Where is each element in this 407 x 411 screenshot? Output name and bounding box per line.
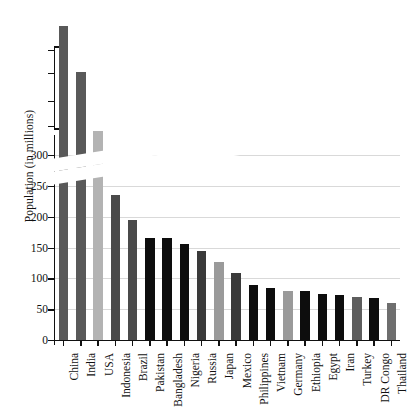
y-axis-tick <box>48 248 55 249</box>
gridline <box>55 278 400 279</box>
x-axis-line <box>53 340 400 342</box>
y-axis-line-upper <box>54 46 56 129</box>
x-axis-tick <box>304 340 305 346</box>
x-axis-tick <box>373 340 374 346</box>
bar <box>266 288 276 340</box>
bar <box>197 251 207 340</box>
bar-upper-segment <box>76 72 86 145</box>
gridline <box>55 186 400 187</box>
y-axis-tick-label: 150 <box>31 242 48 254</box>
x-axis-tick <box>132 340 133 346</box>
y-axis-tick-upper <box>48 50 55 51</box>
x-axis-label: Iran <box>344 353 356 372</box>
x-axis-label: Vietnam <box>275 353 287 392</box>
x-axis-label: China <box>68 353 80 380</box>
x-axis-tick <box>63 340 64 346</box>
x-axis-label: Japan <box>223 353 235 379</box>
bar <box>300 291 310 340</box>
y-axis-tick-upper <box>48 73 55 74</box>
bar <box>283 291 293 340</box>
x-axis-tick <box>356 340 357 346</box>
bar <box>180 244 190 340</box>
x-axis-label: Bangladesh <box>172 353 184 407</box>
x-axis-tick <box>270 340 271 346</box>
x-axis-label: Brazil <box>137 353 149 381</box>
x-axis-tick <box>201 340 202 346</box>
x-axis-tick <box>287 340 288 346</box>
bar-upper-segment <box>59 26 69 144</box>
bar <box>145 238 155 340</box>
x-axis-label: Germany <box>292 353 304 396</box>
x-axis-label: USA <box>103 353 115 376</box>
y-axis-tick <box>48 278 55 279</box>
gridline <box>55 248 400 249</box>
x-axis-label: Russia <box>206 353 218 384</box>
bar <box>318 294 328 340</box>
bar <box>352 297 362 340</box>
x-axis-tick <box>149 340 150 346</box>
gridline <box>55 217 400 218</box>
y-axis-tick-upper <box>48 101 55 102</box>
y-axis-title: Population (in millions) <box>23 81 35 251</box>
y-axis-tick-label: 50 <box>37 303 49 315</box>
bar <box>369 298 379 340</box>
x-axis-tick <box>115 340 116 346</box>
x-axis-tick <box>339 340 340 346</box>
x-axis-tick <box>235 340 236 346</box>
x-axis-label: Nigeria <box>189 353 201 387</box>
bar <box>111 195 121 340</box>
x-axis-tick <box>253 340 254 346</box>
bar-chart: Population (in millions) 050100150200250… <box>0 0 407 411</box>
x-axis-tick <box>97 340 98 346</box>
x-axis-label: Indonesia <box>120 353 132 398</box>
y-axis-tick <box>48 217 55 218</box>
x-axis-tick <box>322 340 323 346</box>
x-axis-label: Mexico <box>241 353 253 388</box>
bar <box>231 273 241 340</box>
y-axis-tick <box>48 309 55 310</box>
bar <box>162 238 172 340</box>
x-axis-tick <box>218 340 219 346</box>
y-axis-tick <box>48 186 55 187</box>
bar <box>249 285 259 341</box>
bar <box>335 295 345 340</box>
x-axis-label: Egypt <box>327 353 339 380</box>
bar <box>387 303 397 340</box>
y-axis-tick <box>48 340 55 341</box>
x-axis-label: Pakistan <box>154 353 166 392</box>
bar <box>214 262 224 340</box>
bar <box>128 220 138 340</box>
x-axis-tick <box>391 340 392 346</box>
x-axis-label: Ethiopia <box>310 353 322 392</box>
y-axis-tick-label: 100 <box>31 272 48 284</box>
y-axis-tick <box>48 155 55 156</box>
x-axis-label: Philippines <box>258 353 270 405</box>
x-axis-label: India <box>85 353 97 377</box>
x-axis-tick <box>166 340 167 346</box>
y-axis-tick-label: 0 <box>42 334 48 346</box>
x-axis-tick <box>80 340 81 346</box>
y-axis-tick-upper <box>48 126 55 127</box>
x-axis-label: Thailand <box>396 353 407 394</box>
plot-area: 050100150200250300 ChinaIndiaUSAIndonesi… <box>55 5 400 340</box>
y-axis-tick-label: 200 <box>31 211 48 223</box>
x-axis-tick <box>184 340 185 346</box>
x-axis-label: Turkey <box>361 353 373 386</box>
x-axis-label: DR Congo <box>379 353 391 403</box>
gridline <box>55 309 400 310</box>
